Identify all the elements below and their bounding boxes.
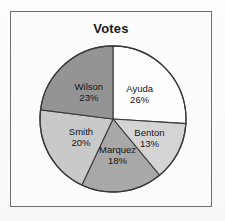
slice-label-name-wilson: Wilson — [75, 81, 104, 92]
slice-label-value-marquez: 18% — [108, 155, 128, 166]
slice-label-value-wilson: 23% — [79, 92, 99, 103]
pie-slice-group — [40, 46, 186, 192]
slice-label-value-benton: 13% — [140, 138, 160, 149]
slice-label-name-smith: Smith — [69, 126, 93, 137]
slice-label-name-marquez: Marquez — [99, 144, 136, 155]
chart-screenshot: Votes Ayuda26%Benton13%Marquez18%Smith20… — [0, 0, 225, 221]
slice-label-value-ayuda: 26% — [130, 94, 150, 105]
pie-chart: Ayuda26%Benton13%Marquez18%Smith20%Wilso… — [0, 0, 225, 221]
slice-label-name-ayuda: Ayuda — [126, 83, 153, 94]
slice-label-name-benton: Benton — [134, 127, 164, 138]
slice-label-value-smith: 20% — [72, 137, 92, 148]
